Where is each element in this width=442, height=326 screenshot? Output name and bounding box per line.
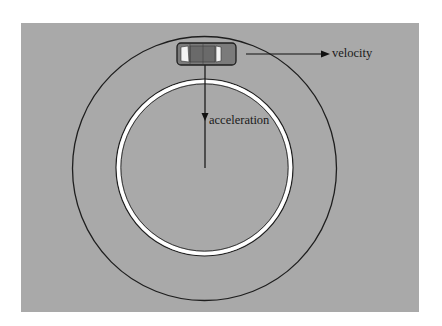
field-background	[21, 23, 419, 312]
car-icon	[177, 43, 236, 65]
circular-motion-diagram	[0, 0, 442, 326]
diagram-canvas: velocity acceleration	[0, 0, 442, 326]
acceleration-label: acceleration	[209, 114, 269, 127]
velocity-label: velocity	[332, 47, 372, 60]
